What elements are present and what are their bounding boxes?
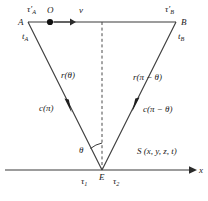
left-ray-arrow-head (65, 99, 72, 113)
label-c-pi: c(π) (39, 104, 54, 113)
label-point-o: O (47, 6, 54, 15)
label-point-a: A (18, 18, 24, 27)
label-point-e: E (99, 173, 105, 182)
label-source-frame: S (x, y, z, t) (137, 147, 177, 156)
label-x-axis: x (199, 166, 203, 175)
label-t-b: tB (178, 32, 184, 41)
right-ray-arrow-head (132, 98, 139, 112)
tau-b-prime-subscript: B (170, 8, 174, 15)
label-tau-1: τ1 (81, 177, 87, 186)
tau-1-subscript: 1 (84, 180, 87, 187)
label-r-theta: r(θ) (61, 71, 75, 80)
tau-a-prime-subscript: A (32, 8, 36, 15)
tau-2-subscript: 2 (116, 180, 119, 187)
label-theta: θ (79, 146, 83, 155)
label-r-pi-minus-theta: r(π − θ) (133, 73, 162, 82)
t-b-subscript: B (181, 35, 185, 42)
t-a-subscript: A (25, 35, 29, 42)
diagram-canvas (0, 0, 208, 201)
label-velocity: v (79, 6, 83, 15)
label-tau-a-prime: τ′A (27, 5, 36, 14)
label-point-b: B (181, 18, 187, 27)
label-t-a: tA (22, 32, 28, 41)
velocity-arrow-head (70, 19, 76, 26)
label-c-pi-minus-theta: c(π − θ) (143, 105, 173, 114)
theta-angle-arc (91, 143, 103, 149)
point-o-dot (47, 19, 53, 25)
label-tau-2: τ2 (113, 177, 119, 186)
label-tau-b-prime: τ′B (165, 5, 174, 14)
relativistic-emission-diagram: τ′A A tA O v τ′B B tB r(θ) c(π) r(π − θ)… (0, 0, 208, 201)
x-axis-arrow-head (189, 166, 197, 173)
